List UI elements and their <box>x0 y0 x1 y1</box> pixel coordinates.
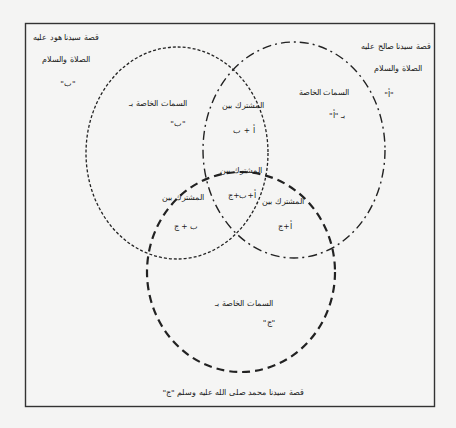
salih-unique-label: السمات الخاصة <box>299 88 350 98</box>
salih-title-line1: قصة سيدنا صالح عليه <box>361 42 431 52</box>
hud-title-line2: الصلاة والسلام <box>42 55 90 65</box>
intersection-b-c-value: ب + ج <box>174 222 198 232</box>
hud-title-line1: قصة سيدنا هود عليه <box>33 33 99 43</box>
salih-unique-symbol: بـ "أ" <box>329 111 345 121</box>
salih-symbol: "أ" <box>384 90 393 100</box>
intersection-a-b-value: أ + ب <box>233 126 254 136</box>
intersection-a-c-label: المشترك بين <box>262 197 303 207</box>
muhammad-unique-label: السمات الخاصة بـ <box>215 299 272 309</box>
salih-title-line2: الصلاة والسلام <box>374 64 422 74</box>
hud-symbol: "ب" <box>60 79 75 89</box>
muhammad-unique-symbol: "ج" <box>263 318 275 328</box>
diagram-frame <box>26 24 435 407</box>
intersection-a-b-c-label: المشترك بين <box>220 166 261 176</box>
intersection-a-c-value: أ+ج <box>278 222 291 232</box>
hud-unique-label: السمات الخاصة بـ <box>129 99 186 109</box>
muhammad-caption: قصة سيدنا محمد صلى الله عليه وسلم "ج" <box>162 388 303 398</box>
intersection-b-c-label: المشترك بين <box>162 193 203 203</box>
intersection-a-b-c-value: أ+ب+ج <box>228 191 256 201</box>
hud-unique-symbol: "ب" <box>170 119 185 129</box>
intersection-a-b-label: المشترك بين <box>222 101 263 111</box>
